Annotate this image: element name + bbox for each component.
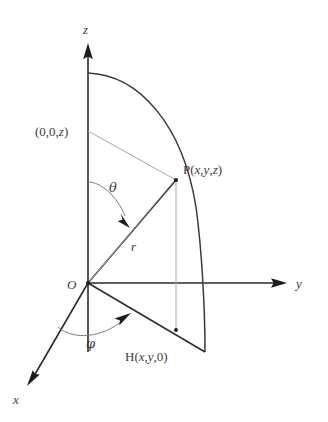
theta-label: θ xyxy=(109,180,117,195)
z-intercept-label: (0,0,z) xyxy=(35,124,68,139)
radius-label: r xyxy=(131,239,137,254)
meridian-arc xyxy=(88,73,205,352)
z-to-p-line xyxy=(88,131,176,180)
z-intercept-suffix: ) xyxy=(64,124,68,139)
x-axis xyxy=(27,283,88,386)
point-h-suffix: ) xyxy=(163,349,167,364)
point-p-label: P(x,y,z) xyxy=(183,162,222,177)
z-axis-label: z xyxy=(82,22,88,37)
radius-ray-light xyxy=(88,181,174,283)
point-p-dot xyxy=(174,178,178,182)
z-axis xyxy=(83,43,93,352)
point-h-label: H(x,y,0) xyxy=(125,349,168,364)
projection-ray-oh xyxy=(88,283,205,352)
point-h-dot xyxy=(174,328,178,332)
origin-dot xyxy=(86,281,90,285)
y-axis xyxy=(88,278,287,288)
x-axis-label: x xyxy=(12,392,19,407)
point-p-suffix: ) xyxy=(218,162,222,177)
y-axis-label: y xyxy=(294,276,302,291)
point-h-prefix: H( xyxy=(125,349,139,364)
origin-label: O xyxy=(67,277,77,292)
spherical-coordinates-figure: z y x O (0,0,z) P(x,y,z) H(x,y,0) θ φ r xyxy=(0,0,328,422)
phi-label: φ xyxy=(86,336,96,351)
z-intercept-prefix: (0,0, xyxy=(35,124,59,139)
point-p-prefix: P( xyxy=(183,162,195,177)
figure-canvas: z y x O (0,0,z) P(x,y,z) H(x,y,0) θ φ r xyxy=(0,0,328,422)
